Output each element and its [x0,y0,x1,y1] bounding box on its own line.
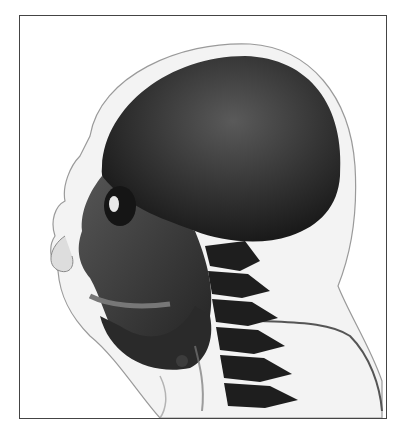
ct-skull-render [20,16,386,418]
eye-orbit [104,186,136,226]
image-frame [19,15,387,419]
orbit-highlight [109,196,119,212]
